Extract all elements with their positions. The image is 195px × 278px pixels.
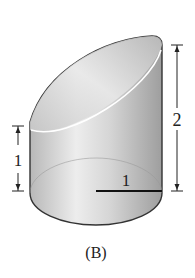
radius-label: 1 — [122, 171, 131, 190]
left-height-label: 1 — [14, 151, 23, 170]
figure-caption: (B) — [85, 244, 106, 262]
right-height-label: 2 — [173, 110, 182, 130]
truncated-cylinder-diagram: 1 1 2 (B) — [0, 0, 195, 278]
